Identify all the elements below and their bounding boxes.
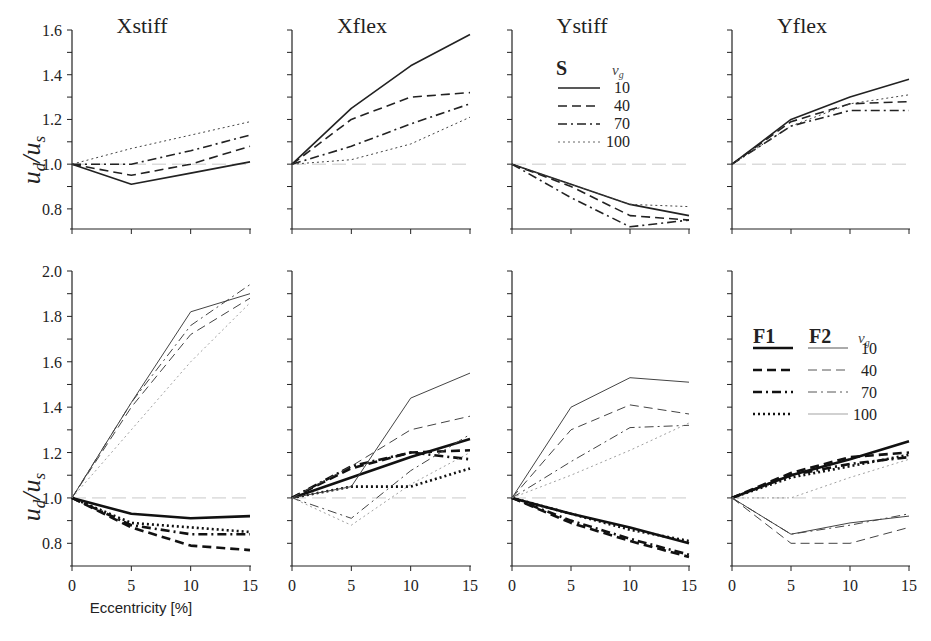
y-tick-label: 1.4 [42, 67, 62, 84]
y-tick-label: 1.8 [42, 308, 62, 325]
series-line [72, 162, 250, 184]
x-tick-label: 0 [728, 577, 736, 594]
panel-bottom-3: 051015 [507, 271, 697, 594]
series-line [72, 285, 250, 498]
series-line [732, 95, 909, 164]
x-tick-label: 10 [403, 577, 419, 594]
x-tick-label: 0 [68, 577, 76, 594]
legend-entry: 100 [853, 406, 877, 423]
series-line [512, 378, 689, 498]
series-line [732, 102, 909, 165]
panel-title: Ystiff [557, 13, 609, 38]
legend-entry: 70 [861, 384, 877, 401]
series-line [512, 423, 689, 498]
series-line [72, 135, 250, 164]
y-tick-label: 0.8 [42, 201, 62, 218]
series-line [512, 425, 689, 498]
x-tick-label: 15 [242, 577, 258, 594]
legend-head-f1: F1 [753, 325, 775, 347]
series-line [292, 453, 470, 498]
series-line [292, 117, 470, 164]
panel-title: Xstiff [117, 13, 169, 38]
series-line [292, 93, 470, 165]
y-tick-label: 0.8 [42, 535, 62, 552]
x-tick-label: 5 [347, 577, 355, 594]
y-tick-label: 1.6 [42, 354, 62, 371]
series-line [72, 498, 250, 518]
legend-entry: 70 [614, 115, 630, 132]
x-tick-label: 5 [567, 577, 575, 594]
panel-bottom-2: 051015 [287, 271, 478, 594]
series-line [732, 111, 909, 165]
panel-top-2: Xflex [287, 13, 471, 234]
series-line [512, 164, 689, 215]
panel-bottom-1: 0.81.01.21.41.61.82.0051015 [42, 263, 258, 594]
series-line [732, 498, 909, 543]
series-line [72, 303, 250, 498]
series-line [292, 104, 470, 164]
legend-entry: 100 [606, 133, 630, 150]
x-tick-label: 10 [183, 577, 199, 594]
series-line [732, 79, 909, 164]
panel-title: Xflex [337, 13, 387, 38]
y-tick-label: 1.2 [42, 111, 62, 128]
x-tick-label: 15 [681, 577, 697, 594]
legend-vg-label: vg [612, 62, 624, 80]
panel-bottom-4: 051015F1F2vg104070100 [727, 271, 917, 594]
x-axis-label: Eccentricity [%] [90, 599, 193, 616]
legend-entry: 40 [614, 97, 630, 114]
y-axis-label-top: ud/us [17, 135, 49, 184]
series-line [512, 164, 689, 206]
legend-entry: 10 [861, 340, 877, 357]
panel-top-3: YstiffSvg104070100 [507, 13, 690, 234]
series-line [512, 405, 689, 498]
legend-head: S [556, 57, 567, 79]
series-line [732, 459, 909, 498]
series-line [292, 450, 470, 498]
x-tick-label: 10 [622, 577, 638, 594]
series-line [732, 498, 909, 534]
panel-top-4: Yflex [727, 13, 910, 234]
y-tick-label: 1.4 [42, 399, 62, 416]
y-tick-label: 1.2 [42, 445, 62, 462]
panels: 0.81.01.21.41.6XstiffXflexYstiffSvg10407… [42, 13, 917, 594]
x-tick-label: 0 [508, 577, 516, 594]
x-tick-label: 15 [462, 577, 478, 594]
y-axis-label-bottom: ud/us [17, 472, 49, 521]
x-tick-label: 0 [288, 577, 296, 594]
x-tick-label: 5 [127, 577, 135, 594]
series-line [732, 441, 909, 498]
panel-top-1: 0.81.01.21.41.6Xstiff [42, 13, 251, 234]
legend-entry: 40 [861, 362, 877, 379]
legend-head-f2: F2 [809, 325, 831, 347]
panel-title: Yflex [777, 13, 827, 38]
y-tick-label: 2.0 [42, 263, 62, 280]
series-line [72, 298, 250, 498]
figure: 0.81.01.21.41.6XstiffXflexYstiffSvg10407… [0, 0, 931, 641]
legend: Svg104070100 [556, 57, 630, 150]
y-tick-label: 1.6 [42, 22, 62, 39]
series-line [512, 498, 689, 555]
series-line [72, 146, 250, 175]
series-line [292, 373, 470, 498]
x-tick-label: 10 [842, 577, 858, 594]
legend-entry: 10 [614, 79, 630, 96]
x-tick-label: 5 [787, 577, 795, 594]
legend: F1F2vg104070100 [753, 325, 877, 423]
series-line [732, 457, 909, 498]
x-tick-label: 15 [901, 577, 917, 594]
